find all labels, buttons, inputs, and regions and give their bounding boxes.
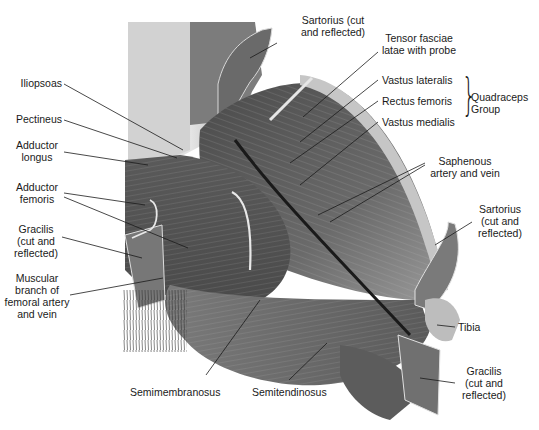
label-tibia: Tibia	[458, 321, 480, 333]
label-iliopsoas: Iliopsoas	[14, 77, 62, 89]
label-gracilis-right: Gracilis (cut and reflected)	[456, 365, 512, 401]
label-saphenous: Saphenous artery and vein	[424, 155, 506, 179]
label-line: (cut and	[10, 235, 62, 247]
label-line: Sartorius	[472, 203, 528, 215]
label-adductor-longus: Adductor longus	[10, 139, 64, 163]
label-line: latae with probe	[378, 44, 460, 56]
label-line: reflected)	[456, 389, 512, 401]
label-line: longus	[10, 151, 64, 163]
label-line: branch of	[2, 284, 72, 296]
label-line: Gracilis	[10, 223, 62, 235]
label-gracilis-left: Gracilis (cut and reflected)	[10, 223, 62, 259]
label-line: artery and vein	[424, 167, 506, 179]
label-line: reflected)	[472, 227, 528, 239]
label-line: Saphenous	[424, 155, 506, 167]
hair-tuft	[122, 290, 187, 352]
label-quadriceps-group: Quadraceps Group	[471, 91, 528, 115]
label-line: Quadraceps	[471, 91, 528, 103]
label-line: and reflected)	[296, 26, 370, 38]
label-semimembranosus: Semimembranosus	[130, 386, 220, 398]
tibia-region	[425, 298, 460, 341]
label-vastus-medialis: Vastus medialis	[382, 116, 455, 128]
label-sartorius-right: Sartorius (cut and reflected)	[472, 203, 528, 239]
label-line: Muscular	[2, 272, 72, 284]
label-rectus-femoris: Rectus femoris	[382, 95, 452, 107]
label-muscular-branch: Muscular branch of femoral artery and ve…	[2, 272, 72, 320]
label-vastus-lateralis: Vastus lateralis	[382, 74, 452, 86]
label-semitendinosus: Semitendinosus	[252, 386, 327, 398]
label-line: femoral artery	[2, 296, 72, 308]
label-line: Gracilis	[456, 365, 512, 377]
label-line: Adductor	[10, 139, 64, 151]
label-line: Sartorius (cut	[296, 14, 370, 26]
label-line: Tensor fasciae	[378, 32, 460, 44]
label-adductor-femoris: Adductor femoris	[10, 181, 64, 205]
label-line: (cut and	[472, 215, 528, 227]
label-line: (cut and	[456, 377, 512, 389]
label-tensor-fasciae-latae: Tensor fasciae latae with probe	[378, 32, 460, 56]
label-line: Adductor	[10, 181, 64, 193]
label-line: Group	[471, 103, 528, 115]
label-line: femoris	[10, 193, 64, 205]
label-line: and vein	[2, 308, 72, 320]
label-pectineus: Pectineus	[6, 113, 62, 125]
label-sartorius-top: Sartorius (cut and reflected)	[296, 14, 370, 38]
label-line: reflected)	[10, 247, 62, 259]
